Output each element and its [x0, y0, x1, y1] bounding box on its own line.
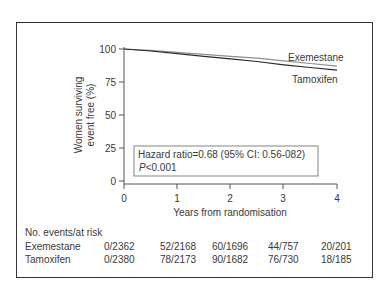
x-tick-label: 1: [174, 193, 180, 204]
risk-cell: 90/1682: [212, 254, 248, 265]
x-ticks: 0 1 2 3 4: [121, 184, 340, 204]
exemestane-label: Exemestane: [288, 52, 344, 63]
risk-cell: 0/2380: [104, 254, 135, 265]
y-tick-label: 50: [105, 110, 117, 121]
p-value-text: P<0.001: [139, 162, 177, 173]
tamoxifen-label: Tamoxifen: [292, 74, 338, 85]
x-axis-label: Years from randomisation: [173, 207, 287, 218]
risk-cell: 76/730: [268, 254, 299, 265]
risk-cell: 0/2362: [104, 241, 135, 252]
y-tick-label: 25: [105, 143, 117, 154]
risk-cell: 20/201: [321, 241, 352, 252]
y-tick-label: 75: [105, 77, 117, 88]
x-tick-label: 4: [334, 193, 340, 204]
survival-chart: 100 75 50 25 0 0 1 2 3 4 Years from rand…: [0, 0, 384, 297]
y-tick-label: 0: [110, 176, 116, 187]
risk-cell: 60/1696: [212, 241, 248, 252]
x-tick-label: 0: [121, 193, 127, 204]
x-tick-label: 3: [280, 193, 286, 204]
risk-cell: 78/2173: [160, 254, 196, 265]
x-tick-label: 2: [227, 193, 233, 204]
y-ticks: 100 75 50 25 0: [99, 44, 124, 187]
risk-cell: 18/185: [321, 254, 352, 265]
y-tick-label: 100: [99, 44, 116, 55]
svg-text:Women surviving: Women surviving: [73, 77, 84, 154]
svg-text:event free (%): event free (%): [85, 84, 96, 147]
risk-cell: 52/2168: [160, 241, 196, 252]
hazard-ratio-text: Hazard ratio=0.68 (95% CI: 0.56-082): [138, 149, 305, 160]
risk-cell: 44/757: [268, 241, 299, 252]
risk-row-label: Tamoxifen: [25, 254, 71, 265]
hazard-ratio-box: Hazard ratio=0.68 (95% CI: 0.56-082) P<0…: [134, 146, 318, 176]
risk-table-header: No. events/at risk: [25, 227, 102, 238]
risk-row-label: Exemestane: [25, 241, 81, 252]
y-axis-label: Women surviving event free (%): [73, 77, 96, 154]
